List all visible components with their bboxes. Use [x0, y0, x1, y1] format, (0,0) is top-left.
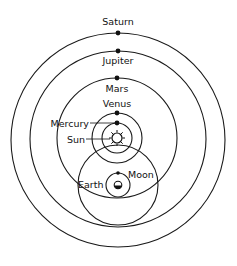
label-sun: Sun	[67, 134, 85, 145]
tychonic-system-diagram: Saturn Jupiter Mars Venus Mercury Sun Ea…	[0, 0, 237, 266]
label-earth: Earth	[78, 179, 103, 190]
venus-dot	[115, 111, 120, 116]
saturn-dot	[116, 31, 121, 36]
label-mars: Mars	[106, 83, 129, 94]
label-jupiter: Jupiter	[102, 55, 134, 66]
label-venus: Venus	[103, 98, 132, 109]
mercury-dot	[115, 121, 120, 126]
mars-dot	[115, 76, 120, 81]
earth-icon	[114, 181, 122, 189]
label-saturn: Saturn	[102, 16, 133, 27]
moon-dot	[116, 171, 120, 175]
jupiter-dot	[116, 49, 121, 54]
sun-icon	[109, 130, 125, 146]
label-moon: Moon	[128, 169, 154, 180]
label-mercury: Mercury	[50, 118, 89, 129]
